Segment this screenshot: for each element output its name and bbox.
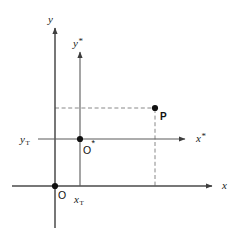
y-axis-label: y (48, 14, 53, 25)
y-star-axis-label: y* (73, 38, 82, 49)
coordinate-system-figure: y y* x x* yT xT O O* P (0, 0, 237, 236)
point-p-marker (152, 105, 158, 111)
y-translation-label: yT (20, 134, 29, 145)
origin-star-label: O* (83, 142, 95, 155)
figure-canvas (0, 0, 237, 236)
x-star-axis-label: x* (196, 133, 205, 144)
x-axis-label: x (222, 180, 227, 191)
point-p-label: P (160, 112, 167, 122)
origin-label: O (58, 190, 66, 201)
x-translation-label: xT (74, 194, 83, 205)
